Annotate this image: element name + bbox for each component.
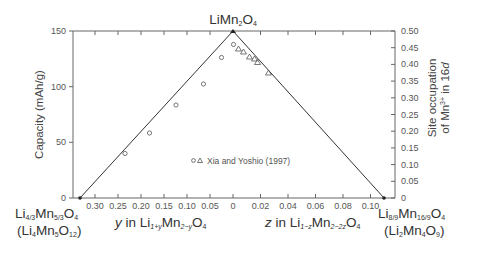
tick-label: 0.30 [401, 93, 419, 103]
tick-label: 0.10 [401, 160, 419, 170]
data-point-circle [123, 151, 127, 155]
x-right-tick-labels: 0.02 0.04 0.06 0.08 0.10 [252, 201, 380, 211]
data-point-triangle [241, 49, 247, 54]
vertex-markers [78, 29, 386, 200]
tick-label: 0.20 [132, 201, 150, 211]
tick-label: 0.02 [252, 201, 270, 211]
left-end-dot [78, 196, 82, 200]
tick-label: 0.05 [401, 176, 419, 186]
data-point-triangle [247, 54, 253, 59]
tick-label: 100 [51, 82, 66, 92]
tick-label: 0.45 [401, 43, 419, 53]
right-axis-title-line2: of Mn3+ in 16d [439, 62, 451, 134]
tick-label: 0.10 [362, 201, 380, 211]
data-point-triangle [236, 46, 242, 51]
x-left-tick-labels: 0.30 0.25 0.20 0.15 0.10 0.05 0 [86, 201, 235, 211]
tick-label: 0 [61, 193, 66, 203]
tick-label: 0.35 [401, 76, 419, 86]
x-left-axis-title: y in Li1+yMn2−yO4 [114, 215, 207, 231]
tick-label: 0.10 [178, 201, 196, 211]
right-axis-title: Site occupation of Mn3+ in 16d [426, 59, 451, 138]
tick-label: 0 [230, 201, 235, 211]
tick-label: 0.25 [401, 110, 419, 120]
tick-label: 0.20 [401, 126, 419, 136]
tick-label: 0.40 [401, 59, 419, 69]
tick-label: 150 [51, 26, 66, 36]
chart: 0 50 100 150 0 0.05 0.10 0.15 0.20 0.25 … [0, 0, 477, 253]
left-end-formula: Li4/3Mn5/3O4 [15, 206, 78, 221]
legend-circle-icon [192, 159, 196, 163]
data-point-circle [219, 55, 223, 59]
tick-label: 0.25 [109, 201, 127, 211]
tick-label: 0.30 [86, 201, 104, 211]
axes [73, 31, 395, 198]
series-triangles [236, 46, 272, 75]
series-circles [123, 42, 236, 155]
right-end-formula: Li8/9Mn16/9O4 [378, 206, 445, 221]
right-axis-tick-labels: 0 0.05 0.10 0.15 0.20 0.25 0.30 0.35 0.4… [401, 26, 419, 203]
theory-lines [80, 31, 384, 198]
legend: Xia and Yoshio (1997) [192, 156, 291, 166]
right-branch-line [233, 31, 384, 198]
tick-label: 0.04 [279, 201, 297, 211]
left-branch-line [80, 31, 233, 198]
left-axis-title: Capacity (mAh/g) [33, 70, 45, 159]
tick-label: 0.05 [201, 201, 219, 211]
left-axis-ticks [69, 31, 73, 198]
right-axis-ticks [391, 31, 395, 198]
data-point-circle [147, 131, 151, 135]
tick-label: 0.15 [401, 143, 419, 153]
left-end-formula-alt: (Li4Mn5O12) [17, 223, 81, 238]
tick-label: 0 [401, 193, 406, 203]
legend-triangle-icon [198, 158, 203, 163]
left-axis-tick-labels: 0 50 100 150 [51, 26, 66, 203]
tick-label: 0.50 [401, 26, 419, 36]
tick-label: 0.06 [307, 201, 325, 211]
right-end-formula-alt: (Li2Mn4O9) [384, 223, 445, 238]
tick-label: 0.08 [334, 201, 352, 211]
legend-label: Xia and Yoshio (1997) [207, 156, 290, 166]
right-axis-title-line1: Site occupation [426, 59, 438, 138]
tick-label: 0.15 [155, 201, 173, 211]
top-formula-label: LiMn2O4 [209, 12, 257, 27]
data-point-circle [231, 42, 235, 46]
tick-label: 50 [56, 137, 66, 147]
data-point-circle [201, 82, 205, 86]
x-right-axis-title: z in Li1−zMn2−2zO4 [264, 215, 360, 230]
data-point-circle [174, 103, 178, 107]
x-axis-ticks [95, 31, 371, 198]
right-end-dot [382, 196, 386, 200]
